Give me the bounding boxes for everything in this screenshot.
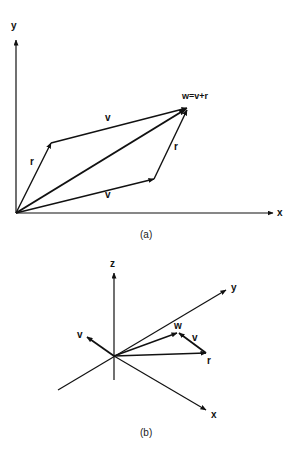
vector-r-b — [114, 353, 206, 356]
caption-a: (a) — [140, 230, 152, 240]
vector-v-left-b — [87, 337, 114, 356]
v-bottom-label: v — [105, 190, 111, 200]
vector-w-b — [114, 333, 177, 356]
r-label-b: r — [207, 356, 211, 366]
x-axis-label-a: x — [277, 208, 283, 218]
z-axis-label-b: z — [110, 259, 115, 269]
w-equals-v-plus-r-label: w=v+r — [182, 92, 208, 101]
x-axis-b — [114, 356, 206, 410]
w-label-b: w — [174, 321, 182, 331]
x-axis-label-b: x — [211, 410, 217, 420]
v-left-label-b: v — [77, 330, 83, 340]
v-right-label-b: v — [192, 333, 198, 343]
r-right-label: r — [174, 142, 178, 152]
y-axis-label-a: y — [11, 21, 17, 31]
vector-v-bottom — [16, 179, 154, 213]
figure-b — [58, 273, 226, 410]
vector-diagram — [0, 0, 300, 453]
y-axis-label-b: y — [231, 283, 237, 293]
y-axis-b — [58, 290, 226, 390]
figure-a — [16, 40, 273, 213]
r-left-label: r — [30, 157, 34, 167]
vector-v-top — [51, 108, 187, 143]
vector-r-right — [154, 110, 187, 179]
caption-b: (b) — [140, 428, 152, 438]
v-top-label: v — [105, 113, 111, 123]
